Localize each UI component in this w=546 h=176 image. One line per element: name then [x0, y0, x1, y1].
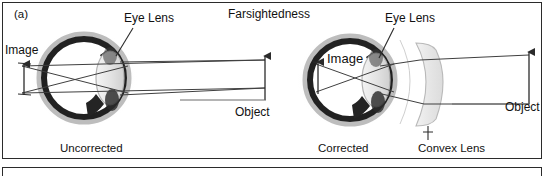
next-figure-panel: [2, 167, 542, 176]
object-label-right: Object: [505, 101, 540, 113]
figure-title: Farsightedness: [228, 8, 310, 20]
figure-panel-a: [2, 2, 542, 159]
image-label-left: Image: [5, 44, 38, 56]
panel-tag: (a): [14, 9, 28, 21]
caption-uncorrected: Uncorrected: [60, 143, 123, 155]
caption-corrected: Corrected: [318, 143, 369, 155]
eye-lens-label-right: Eye Lens: [385, 12, 435, 24]
convex-lens-label: Convex Lens: [418, 143, 485, 155]
image-label-right: Image: [327, 52, 363, 65]
object-label-left: Object: [235, 106, 270, 118]
eye-lens-label-left: Eye Lens: [124, 12, 174, 24]
figure-screenshot: (a) Farsightedness Eye Lens Image Object…: [0, 0, 546, 176]
